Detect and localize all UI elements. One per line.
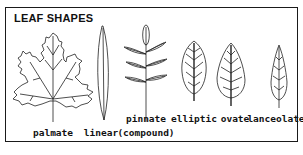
pinnate-sublabel: (compound) — [117, 127, 174, 138]
pinnate-leaf-icon — [124, 25, 167, 122]
pinnate-label: pinnate — [126, 113, 166, 124]
linear-label: linear — [84, 127, 118, 138]
ovate-label: ovate — [221, 113, 250, 124]
linear-leaf-icon — [98, 26, 109, 120]
lanceolate-leaf-icon — [271, 45, 287, 108]
palmate-leaf-icon — [13, 33, 93, 122]
ovate-leaf-icon — [217, 43, 245, 106]
leaf-shapes-diagram: LEAF SHAPES — [0, 0, 303, 155]
lanceolate-label: lanceolate — [247, 113, 303, 124]
elliptic-leaf-icon — [182, 41, 206, 101]
elliptic-label: elliptic — [171, 113, 217, 124]
palmate-label: palmate — [33, 127, 73, 138]
